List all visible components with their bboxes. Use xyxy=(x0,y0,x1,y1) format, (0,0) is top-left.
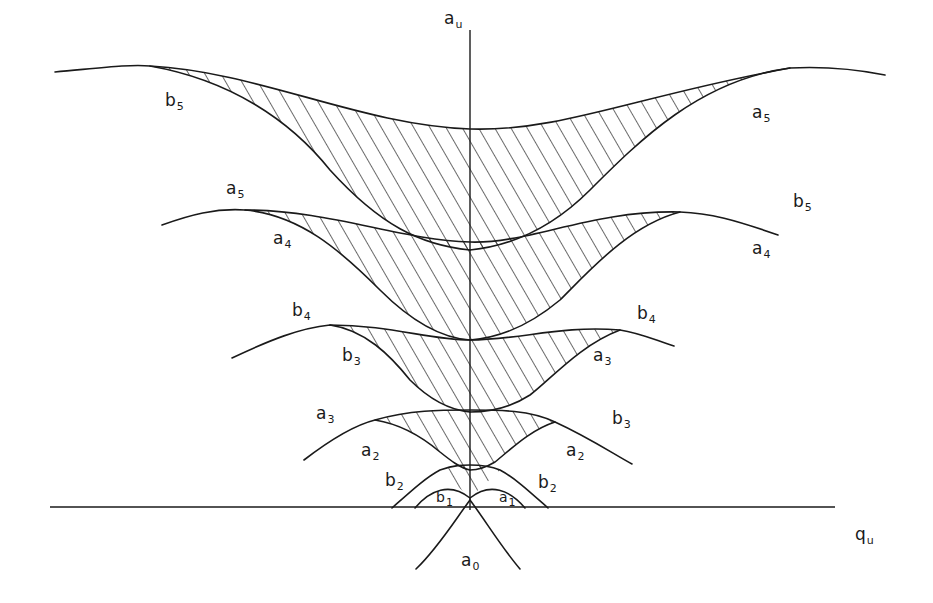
q-axis-label: qu xyxy=(855,526,874,546)
label-b1: b1 xyxy=(436,490,453,508)
label-b3-right: b3 xyxy=(612,410,631,430)
label-a4-left: a4 xyxy=(273,230,291,250)
curve-a1 xyxy=(470,489,525,508)
label-a3-left: a3 xyxy=(316,405,334,425)
label-b2-right: b2 xyxy=(538,474,557,494)
label-a4-right: a4 xyxy=(752,240,770,260)
stability-region-2 xyxy=(375,410,555,470)
label-b2-left: b2 xyxy=(385,472,404,492)
label-b5-right: b5 xyxy=(793,193,812,213)
stability-diagram xyxy=(0,0,933,603)
label-a2-left: a2 xyxy=(361,442,379,462)
label-a1: a1 xyxy=(499,490,516,508)
label-b5-left: b5 xyxy=(165,92,184,112)
label-a3-right: a3 xyxy=(593,347,611,367)
label-a5-right-top: a5 xyxy=(752,104,770,124)
label-a5-left: a5 xyxy=(226,180,244,200)
label-b4-right: b4 xyxy=(637,305,656,325)
label-a2-right: a2 xyxy=(566,442,584,462)
label-a0: a0 xyxy=(461,552,479,572)
label-b3-left: b3 xyxy=(342,347,361,367)
a-axis-label: au xyxy=(444,10,462,30)
label-b4-left: b4 xyxy=(292,302,311,322)
